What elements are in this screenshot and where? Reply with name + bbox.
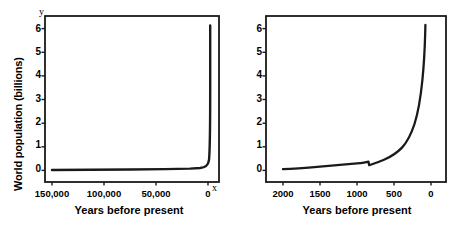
population-curve-left	[52, 26, 210, 171]
chart-panel-right: 6 5 4 3 2 1 0 2000 1500 1000 500 0 Years…	[226, 0, 452, 231]
chart-panel-left: World population (billions) y x 6 5 4 3 …	[0, 0, 226, 231]
plot-frame-left	[45, 16, 219, 182]
plot-area-left	[0, 0, 226, 231]
two-panel-population-figure: World population (billions) y x 6 5 4 3 …	[0, 0, 452, 231]
plot-area-right	[226, 0, 452, 231]
population-curve-right	[283, 25, 425, 169]
